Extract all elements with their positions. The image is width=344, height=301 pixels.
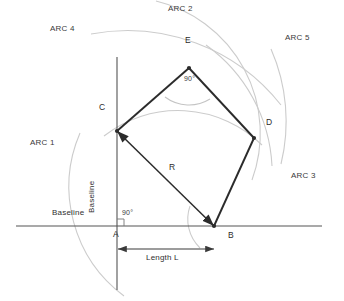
vertex-dot-C: [115, 129, 119, 133]
vertex-dot-B: [212, 224, 216, 228]
construction-arcs: [69, 1, 286, 296]
vertex-dot-E: [187, 66, 191, 70]
arc-cd-path: [104, 111, 262, 145]
arc-near-B-path: [188, 206, 200, 248]
point-label-D: D: [266, 118, 272, 127]
vertex-dots: [115, 66, 256, 228]
right-angle-label-at-E: 90°: [184, 75, 195, 82]
arc-5-path: [206, 45, 272, 166]
baseline-label-vertical: Baseline: [88, 181, 96, 213]
length-label-L: Length L: [146, 254, 179, 262]
segment-C-E: [117, 68, 189, 131]
arc-3-path: [271, 49, 286, 164]
point-label-C: C: [99, 103, 105, 112]
point-label-A: A: [113, 230, 119, 239]
square-outline: [117, 68, 254, 226]
geometric-diagram: A B C D E ARC 1 ARC 2 ARC 3 ARC 4 ARC 5 …: [0, 0, 344, 301]
vertex-dot-D: [252, 136, 256, 140]
arc-label-arc-3: ARC 3: [291, 172, 316, 180]
angle-arc-at-E: [165, 97, 210, 105]
point-label-B: B: [228, 231, 234, 240]
segment-E-D: [189, 68, 254, 138]
baseline-label-horizontal: Baseline: [52, 209, 84, 217]
radius-label-R: R: [169, 163, 175, 172]
right-angle-label-at-A: 90°: [122, 209, 133, 216]
arc-label-arc-1: ARC 1: [30, 139, 55, 147]
right-angle-marker-at-A: [117, 219, 124, 226]
arc-2-path: [156, 1, 260, 180]
point-label-E: E: [185, 36, 191, 45]
segment-D-B: [214, 138, 254, 226]
arc-label-arc-2: ARC 2: [168, 5, 193, 13]
arc-label-arc-4: ARC 4: [50, 25, 75, 33]
arc-label-arc-5: ARC 5: [285, 34, 310, 42]
